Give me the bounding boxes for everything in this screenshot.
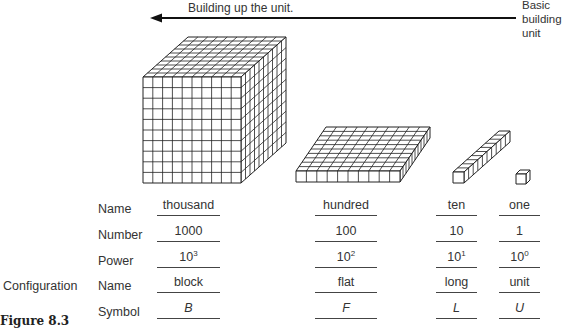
flat-slab: [296, 127, 430, 182]
cell-power: 103: [157, 250, 220, 268]
power-exponent: 1: [461, 249, 465, 258]
cell-name: hundred: [315, 198, 377, 216]
left-arrow-icon: [150, 14, 516, 23]
power-base: 10: [337, 250, 351, 264]
configuration-label: Configuration: [3, 279, 77, 293]
cell-symbol: U: [499, 301, 540, 319]
cell-number: 100: [315, 224, 377, 242]
long-rod: [453, 131, 510, 183]
power-exponent: 3: [193, 249, 197, 258]
basic-label-line: building: [522, 12, 562, 26]
cell-name: ten: [436, 198, 477, 216]
block-cube: [143, 37, 286, 183]
row-label-number: Number: [98, 228, 142, 242]
cell-config: block: [157, 275, 220, 293]
basic-label-line: unit: [522, 26, 562, 40]
row-label-power: Power: [98, 254, 133, 268]
row-label-symbol: Symbol: [98, 305, 140, 319]
unit-cube: [516, 170, 530, 184]
row-label-name: Name: [98, 202, 131, 216]
cell-number: 1: [499, 224, 540, 242]
power-base: 10: [447, 250, 461, 264]
cell-power: 100: [499, 250, 540, 268]
cell-name: one: [499, 198, 540, 216]
cell-number: 1000: [157, 224, 220, 242]
cell-name: thousand: [157, 198, 220, 216]
power-exponent: 0: [524, 249, 528, 258]
power-exponent: 2: [351, 249, 355, 258]
power-base: 10: [510, 250, 524, 264]
cell-symbol: L: [436, 301, 477, 319]
cell-symbol: B: [157, 301, 220, 319]
figure-caption: Figure 8.3: [0, 314, 69, 328]
cell-config: unit: [499, 275, 540, 293]
cell-config: flat: [315, 275, 377, 293]
cell-config: long: [436, 275, 477, 293]
power-base: 10: [179, 250, 193, 264]
cell-number: 10: [436, 224, 477, 242]
basic-label-line: Basic: [522, 0, 562, 12]
cell-power: 101: [436, 250, 477, 268]
row-label-config-name: Name: [98, 279, 131, 293]
basic-building-unit-label: Basic building unit: [522, 0, 562, 40]
cell-symbol: F: [315, 301, 377, 319]
cell-power: 102: [315, 250, 377, 268]
